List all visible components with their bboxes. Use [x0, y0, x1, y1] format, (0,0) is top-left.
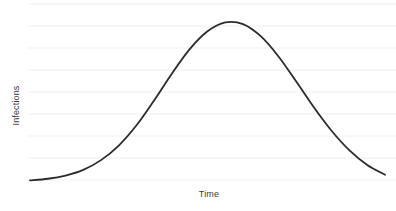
- epidemic-curve-chart: Infections Time: [0, 0, 396, 211]
- x-axis-label: Time: [33, 190, 385, 199]
- gridlines-group: [28, 4, 396, 180]
- y-axis-label: Infections: [0, 0, 33, 211]
- infection-curve-line: [30, 22, 385, 181]
- chart-canvas: [0, 0, 396, 211]
- y-axis-label-text: Infections: [12, 85, 21, 125]
